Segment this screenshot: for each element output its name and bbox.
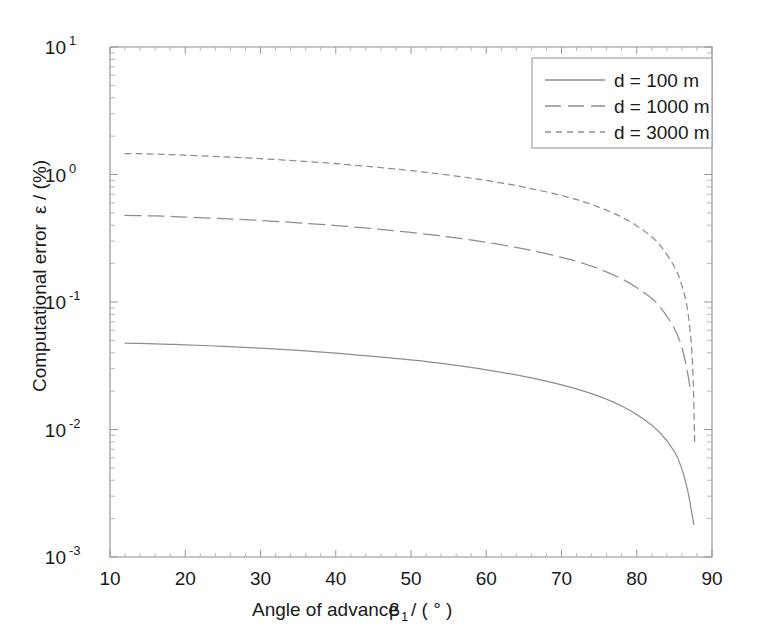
x-tick-label: 50	[400, 568, 421, 589]
y-tick-label-exponent: -1	[69, 288, 81, 303]
curve-d-1000-m	[125, 215, 691, 392]
x-tick-label: 40	[325, 568, 346, 589]
legend-label-1: d = 1000 m	[614, 96, 710, 117]
curve-d-100-m	[125, 343, 694, 524]
y-axis-title: Computational error ε / (%)	[29, 160, 50, 392]
y-axis-symbol-epsilon: ε	[29, 205, 50, 214]
legend-label-2: d = 3000 m	[614, 122, 710, 143]
y-axis-units: / (%)	[29, 160, 50, 200]
x-tick-label: 30	[250, 568, 271, 589]
x-tick-label: 90	[701, 568, 722, 589]
y-tick-label-exponent: -3	[69, 543, 81, 558]
x-axis-symbol-subscript: 1	[401, 609, 408, 624]
y-tick-label-exponent: -2	[69, 416, 81, 431]
x-axis-symbol-beta: β	[389, 599, 400, 620]
y-axis-title-text: Computational error	[29, 223, 50, 392]
legend: d = 100 m d = 1000 m d = 3000 m	[532, 58, 712, 148]
chart-figure: 102030405060708090 10-310-210-1100101 An…	[0, 0, 759, 643]
x-axis-title: Angle of advance β 1 / ( ° )	[252, 599, 452, 624]
y-tick-label-exponent: 0	[69, 161, 76, 176]
x-tick-label: 20	[175, 568, 196, 589]
x-tick-label: 10	[99, 568, 120, 589]
x-axis-units: / ( ° )	[411, 599, 452, 620]
y-axis-tick-labels: 10-310-210-1100101	[45, 33, 81, 568]
y-tick-label: 10	[45, 420, 66, 441]
x-tick-label: 70	[551, 568, 572, 589]
x-axis-tick-labels: 102030405060708090	[99, 568, 722, 589]
x-tick-label: 80	[626, 568, 647, 589]
data-curves	[125, 154, 695, 525]
x-tick-label: 60	[476, 568, 497, 589]
legend-label-0: d = 100 m	[614, 70, 699, 91]
y-tick-label: 10	[45, 37, 66, 58]
chart-page: 102030405060708090 10-310-210-1100101 An…	[0, 0, 759, 643]
x-axis-title-text: Angle of advance	[252, 599, 399, 620]
y-tick-label: 10	[45, 547, 66, 568]
y-tick-label-exponent: 1	[69, 33, 76, 48]
curve-d-3000-m	[125, 154, 695, 442]
